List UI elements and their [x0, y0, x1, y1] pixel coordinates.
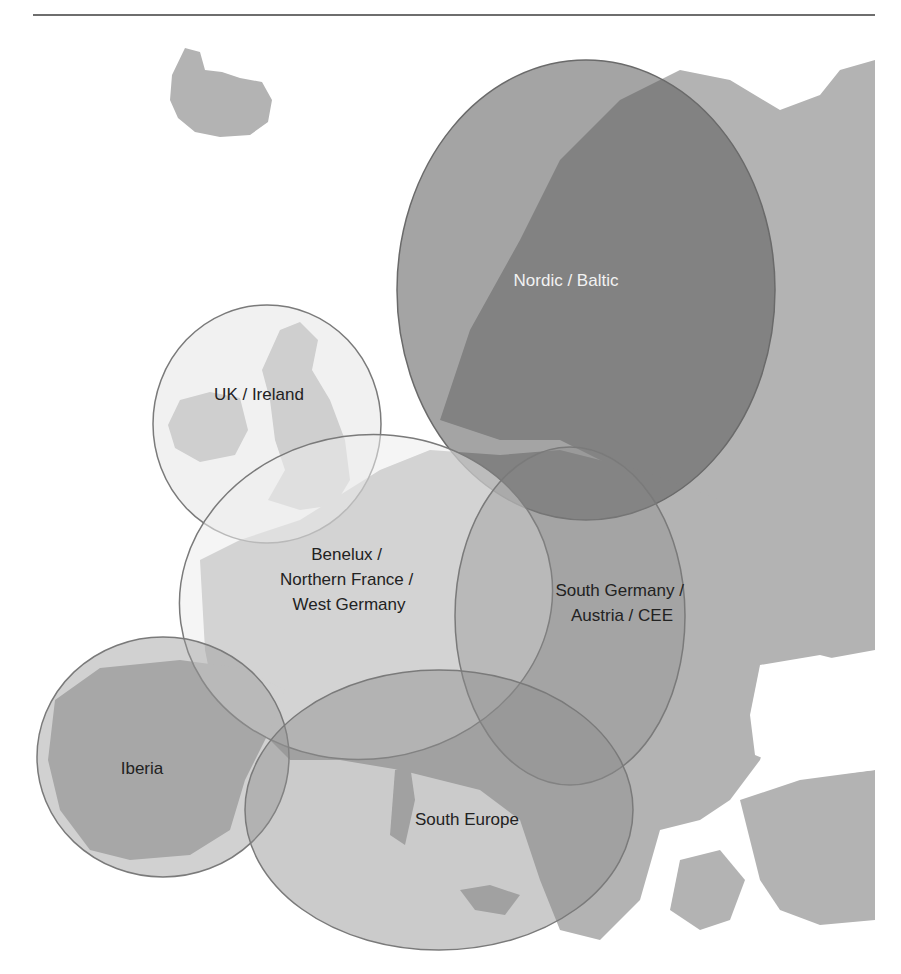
label-iberia: Iberia [121, 759, 164, 778]
greece-landmass [670, 850, 745, 930]
label-uk-ireland: UK / Ireland [214, 385, 304, 404]
label-nordic-baltic: Nordic / Baltic [514, 271, 619, 290]
iceland-landmass [170, 48, 272, 137]
anatolia-landmass [740, 770, 875, 925]
europe-region-map: Nordic / Baltic UK / Ireland Benelux / N… [0, 0, 901, 974]
label-south-europe: South Europe [415, 810, 519, 829]
map-canvas: Nordic / Baltic UK / Ireland Benelux / N… [0, 0, 901, 974]
black-sea [750, 655, 875, 775]
